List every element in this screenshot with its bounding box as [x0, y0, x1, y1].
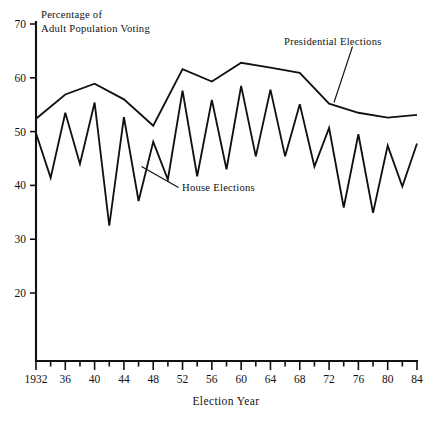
x-ticks-group [36, 361, 417, 370]
chart-note-line-2: Adult Population Voting [41, 23, 150, 34]
x-tick-label-1980: 80 [382, 373, 394, 385]
house-leader-line [142, 167, 179, 188]
x-tick-label-1956: 56 [206, 373, 218, 385]
voter-turnout-line-chart: 203040506070 193236404448525660646872768… [0, 0, 439, 423]
x-tick-labels-group: 193236404448525660646872768084 [25, 373, 424, 385]
y-tick-label-20: 20 [15, 287, 27, 299]
x-tick-label-1972: 72 [323, 373, 335, 385]
x-tick-label-1960: 60 [235, 373, 247, 385]
y-tick-label-30: 30 [15, 233, 27, 245]
y-tick-label-70: 70 [15, 18, 27, 30]
series-group [36, 63, 417, 226]
series-line-house-elections [36, 86, 417, 226]
x-tick-label-1976: 76 [353, 373, 365, 385]
y-tick-label-50: 50 [15, 126, 27, 138]
presidential-leader-line [334, 47, 353, 103]
chart-container: 203040506070 193236404448525660646872768… [0, 0, 439, 423]
x-tick-label-1936: 36 [60, 373, 72, 385]
x-axis-title: Election Year [192, 395, 259, 407]
x-tick-label-1940: 40 [89, 373, 101, 385]
x-tick-label-1948: 48 [147, 373, 159, 385]
annotation-house-elections: House Elections [182, 182, 255, 193]
x-tick-label-1952: 52 [177, 373, 189, 385]
annotation-presidential-elections: Presidential Elections [284, 36, 382, 47]
y-tick-label-60: 60 [15, 72, 27, 84]
x-tick-label-1944: 44 [118, 373, 130, 385]
y-tick-label-40: 40 [15, 179, 27, 191]
chart-note-line-1: Percentage of [41, 9, 102, 20]
x-tick-label-1964: 64 [265, 373, 277, 385]
x-tick-label-1968: 68 [294, 373, 306, 385]
series-line-presidential-elections [36, 63, 417, 126]
x-tick-label-1984: 84 [411, 373, 423, 385]
x-tick-label-1932: 1932 [25, 373, 48, 385]
y-tick-labels-group: 203040506070 [15, 18, 27, 299]
